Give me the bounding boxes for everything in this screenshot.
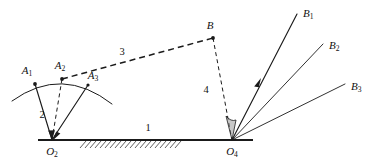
label-a2: A2 (54, 59, 66, 73)
fixed-pivot-labels: O2 O4 (46, 145, 238, 159)
joint-dot-a1 (33, 82, 37, 86)
joint-dot-a2 (60, 77, 64, 81)
label-b2-sub: 2 (336, 44, 340, 53)
label-o2: O2 (46, 145, 58, 159)
label-a3-sub: 3 (94, 74, 98, 83)
joint-dot-a3 (86, 83, 89, 86)
crank-pin-arc-group (12, 84, 112, 104)
moving-pivot-labels: A1 A2 A3 (21, 59, 99, 83)
link4-label: 4 (203, 84, 209, 95)
label-a1: A1 (21, 64, 33, 78)
crank-pin-path-arc (12, 84, 112, 104)
output-ray-b2 (232, 44, 323, 140)
link2-position-3 (52, 85, 88, 140)
link1-label: 1 (145, 122, 150, 133)
label-b3-sub: 3 (358, 85, 362, 94)
ground-link-group: 1 (38, 122, 253, 148)
mechanism-diagram-canvas: 1 2 3 4 (0, 0, 372, 167)
link3-group: 3 (62, 38, 213, 79)
output-rays-group (232, 14, 345, 140)
coupler-joint-label-group: B (207, 19, 214, 31)
label-a2-sub: 2 (61, 64, 65, 73)
label-o4: O4 (226, 145, 238, 159)
label-o4-base: O (226, 145, 234, 157)
label-a3: A3 (87, 69, 99, 83)
joint-dot-b (211, 36, 215, 40)
output-ray-b3 (232, 84, 345, 140)
link2-label: 2 (39, 109, 44, 120)
label-b2: B2 (329, 39, 340, 53)
label-a1-sub: 1 (28, 69, 32, 78)
mechanism-figure: 1 2 3 4 (0, 0, 372, 167)
link3-coupler (62, 38, 213, 79)
label-b: B (207, 19, 214, 31)
output-ray-labels: B1 B2 B3 (303, 7, 362, 94)
link2-group: 2 (35, 79, 88, 141)
label-b1: B1 (303, 7, 314, 21)
ground-hatching (80, 141, 181, 148)
output-ray-b1 (232, 14, 297, 140)
link4-group: 4 (203, 38, 232, 140)
label-b3: B3 (351, 80, 362, 94)
label-o4-sub: 4 (234, 150, 238, 159)
label-b1-sub: 1 (310, 12, 314, 21)
label-o2-sub: 2 (54, 150, 58, 159)
label-o2-base: O (46, 145, 54, 157)
link3-label: 3 (119, 46, 124, 57)
